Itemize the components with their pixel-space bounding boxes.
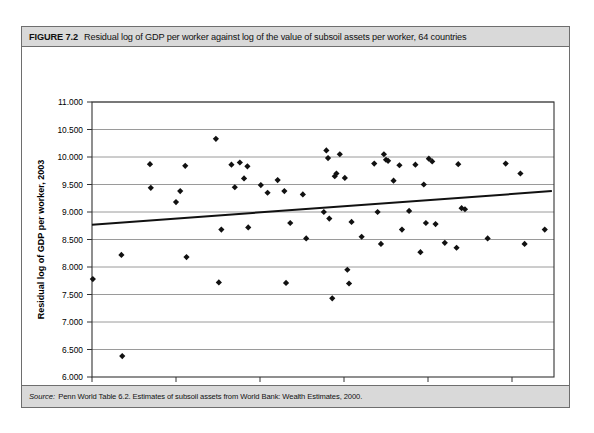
- data-point: [283, 280, 289, 286]
- grid-lines: [92, 102, 554, 350]
- source-label: Source:: [29, 392, 55, 401]
- y-tick-label: 10.500: [57, 125, 83, 135]
- figure-title-band: FIGURE 7.2 Residual log of GDP per worke…: [22, 27, 569, 47]
- data-points: [90, 136, 548, 359]
- data-point: [244, 163, 250, 169]
- data-point: [232, 184, 238, 190]
- data-point: [216, 279, 222, 285]
- data-point: [303, 235, 309, 241]
- data-point: [522, 241, 528, 247]
- data-point: [228, 162, 234, 168]
- data-point: [375, 209, 381, 215]
- data-point: [287, 220, 293, 226]
- y-tick-label: 9.500: [62, 180, 83, 190]
- trend-line: [92, 191, 552, 225]
- data-point: [183, 254, 189, 260]
- data-point: [323, 147, 329, 153]
- data-point: [542, 227, 548, 233]
- data-point: [321, 209, 327, 215]
- data-point: [396, 162, 402, 168]
- figure-number-label: FIGURE 7.2: [29, 32, 78, 42]
- y-tick-label: 10.000: [57, 152, 83, 162]
- data-point: [281, 188, 287, 194]
- data-point: [213, 136, 219, 142]
- data-point: [300, 191, 306, 197]
- x-axis-ticks: [92, 377, 512, 382]
- data-point: [182, 163, 188, 169]
- y-tick-label: 7.500: [62, 290, 83, 300]
- data-point: [329, 295, 335, 301]
- data-point: [344, 267, 350, 273]
- data-point: [177, 188, 183, 194]
- y-axis-tick-labels: 6.0006.5007.0007.5008.0008.5009.0009.500…: [57, 97, 83, 382]
- y-tick-label: 11.000: [58, 97, 83, 107]
- data-point: [147, 161, 153, 167]
- data-point: [485, 235, 491, 241]
- figure-box: FIGURE 7.2 Residual log of GDP per worke…: [21, 26, 570, 408]
- data-point: [237, 159, 243, 165]
- data-point: [423, 220, 429, 226]
- data-point: [348, 219, 354, 225]
- data-point: [378, 241, 384, 247]
- data-point: [245, 224, 251, 230]
- data-point: [342, 175, 348, 181]
- y-tick-label: 8.000: [62, 262, 83, 272]
- y-tick-label: 6.000: [62, 372, 83, 382]
- data-point: [517, 170, 523, 176]
- data-point: [118, 252, 124, 258]
- data-point: [218, 227, 224, 233]
- data-point: [455, 161, 461, 167]
- data-point: [148, 185, 154, 191]
- data-point: [399, 227, 405, 233]
- data-point: [241, 175, 247, 181]
- figure-source-band: Source: Penn World Table 6.2. Estimates …: [22, 385, 569, 407]
- data-point: [503, 161, 509, 167]
- y-tick-label: 6.500: [62, 345, 83, 355]
- data-point: [258, 182, 264, 188]
- data-point: [264, 190, 270, 196]
- data-point: [173, 199, 179, 205]
- data-point: [406, 208, 412, 214]
- data-point: [412, 162, 418, 168]
- data-point: [359, 234, 365, 240]
- data-point: [337, 151, 343, 157]
- y-axis-ticks: [87, 102, 92, 377]
- trend-line-segment: [92, 191, 552, 225]
- y-tick-label: 8.500: [62, 235, 83, 245]
- figure-title-text: Residual log of GDP per worker against l…: [84, 32, 466, 42]
- figure-root: FIGURE 7.2 Residual log of GDP per worke…: [0, 0, 594, 433]
- data-point: [119, 353, 125, 359]
- data-point: [421, 181, 427, 187]
- scatter-chart: 6.0006.5007.0007.5008.0008.5009.0009.500…: [22, 47, 569, 386]
- data-point: [390, 178, 396, 184]
- y-tick-label: 9.000: [62, 207, 83, 217]
- data-point: [442, 240, 448, 246]
- data-point: [432, 221, 438, 227]
- data-point: [325, 155, 331, 161]
- data-point: [90, 276, 96, 282]
- y-tick-label: 7.000: [62, 317, 83, 327]
- data-point: [346, 280, 352, 286]
- data-point: [417, 249, 423, 255]
- data-point: [326, 216, 332, 222]
- data-point: [453, 245, 459, 251]
- chart-area: 6.0006.5007.0007.5008.0008.5009.0009.500…: [22, 47, 569, 385]
- data-point: [275, 177, 281, 183]
- source-text: Penn World Table 6.2. Estimates of subso…: [58, 392, 362, 401]
- data-point: [371, 161, 377, 167]
- data-point: [381, 151, 387, 157]
- y-axis-title: Residual log of GDP per worker, 2003: [36, 160, 46, 319]
